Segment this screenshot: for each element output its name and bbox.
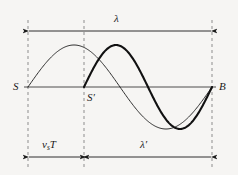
figure-canvas: [0, 0, 238, 175]
label-wavelength-lambda: λ: [114, 13, 119, 24]
doppler-wavelength-figure: S S′ B λ vsT λ′: [0, 0, 238, 175]
label-source-displacement-vst: vsT: [42, 139, 56, 151]
label-source-S-prime: S′: [87, 92, 95, 103]
label-source-S: S: [13, 81, 19, 92]
label-vst-T: T: [50, 138, 56, 150]
label-observer-B: B: [219, 81, 226, 92]
label-wavelength-lambda-prime: λ′: [140, 139, 147, 150]
